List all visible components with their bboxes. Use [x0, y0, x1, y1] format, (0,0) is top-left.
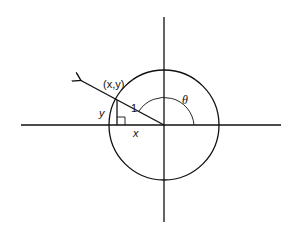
radius-label: 1	[131, 102, 137, 114]
point-label: (x,y)	[103, 78, 124, 90]
horizontal-leg-label: x	[132, 127, 139, 139]
right-angle-marker	[117, 117, 125, 125]
unit-circle-diagram: (x,y) 1 y x θ	[0, 0, 295, 230]
angle-label: θ	[182, 93, 188, 107]
vertical-leg-label: y	[98, 107, 106, 119]
